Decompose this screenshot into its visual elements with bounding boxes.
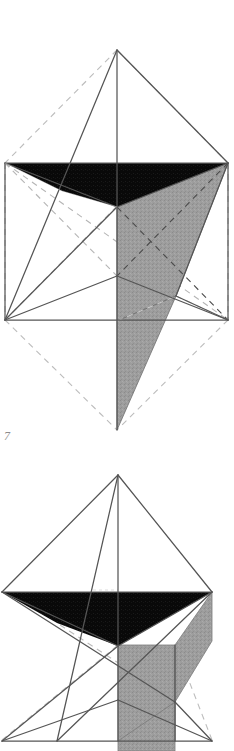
figure-label-7: 7 — [4, 429, 11, 443]
geometric-plate: 7 — [0, 0, 234, 751]
